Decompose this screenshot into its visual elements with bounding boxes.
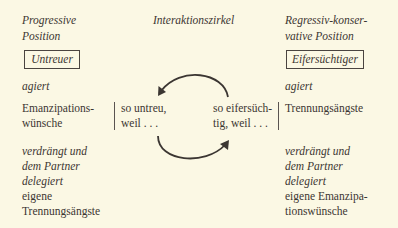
right-repressed-label-line3: delegiert: [285, 174, 326, 189]
right-repressed-value-line2: tionswünsche: [285, 204, 348, 219]
arrow-bottom-curved-icon: [158, 136, 229, 158]
right-repressed-label-line2: dem Partner: [285, 159, 343, 174]
right-header-line1: Regressiv-konser-: [285, 13, 367, 28]
right-repressed-label-line1: verdrängt und: [285, 144, 350, 159]
right-acts-value: Trennungsängste: [285, 101, 363, 116]
right-acts-label: agiert: [285, 79, 312, 94]
arrow-top-curved-icon: [158, 75, 228, 97]
right-role-box: Eifersüchtiger: [286, 50, 364, 69]
right-repressed-value-line1: eigene Emanzipa-: [285, 189, 368, 204]
right-header-line2: vative Position: [285, 29, 354, 44]
